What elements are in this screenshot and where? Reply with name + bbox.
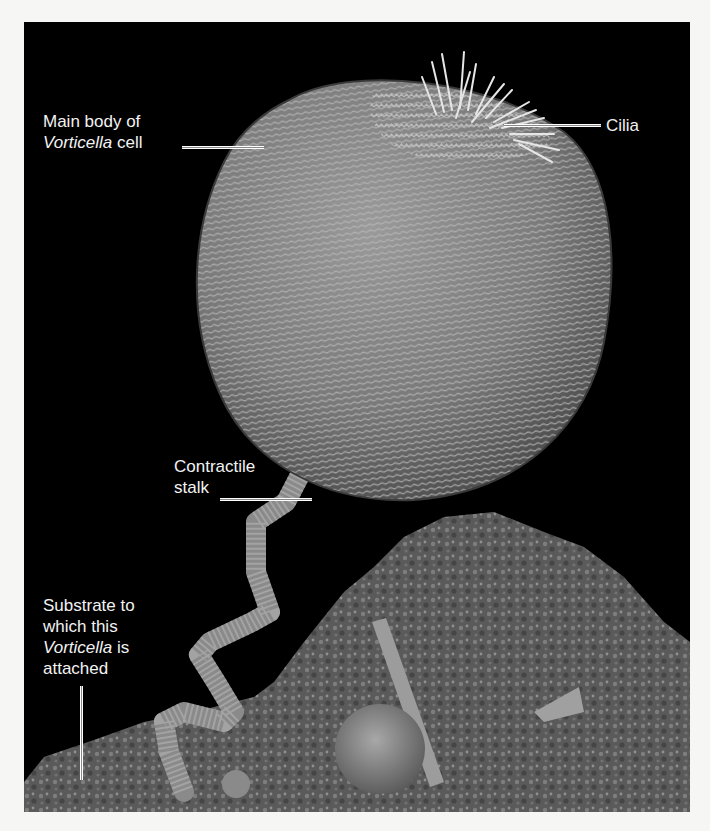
label-main-body-line2: Vorticella cell [43, 132, 143, 153]
label-cilia: Cilia [606, 115, 639, 136]
label-main-body: Main body of Vorticella cell [43, 111, 143, 153]
leader-line-stalk [220, 498, 312, 501]
vorticella-cell-body [197, 80, 612, 500]
label-substrate-italic: Vorticella [43, 638, 112, 657]
label-substrate-line3: Vorticella is [43, 637, 135, 658]
label-main-body-italic: Vorticella [43, 133, 112, 152]
leader-line-cilia [504, 124, 601, 127]
label-substrate-line4: attached [43, 658, 135, 679]
label-stalk-line1: Contractile [174, 456, 255, 477]
micrograph-frame: Main body of Vorticella cell Cilia Contr… [24, 22, 690, 812]
label-substrate-line2: which this [43, 616, 135, 637]
label-stalk-line2: stalk [174, 477, 255, 498]
leader-line-substrate [80, 686, 83, 780]
leader-line-main-body [182, 146, 264, 149]
label-substrate: Substrate to which this Vorticella is at… [43, 595, 135, 679]
label-main-body-line1: Main body of [43, 111, 143, 132]
label-main-body-rest: cell [112, 133, 142, 152]
label-contractile-stalk: Contractile stalk [174, 456, 255, 498]
label-substrate-line1: Substrate to [43, 595, 135, 616]
label-substrate-rest: is [112, 638, 129, 657]
